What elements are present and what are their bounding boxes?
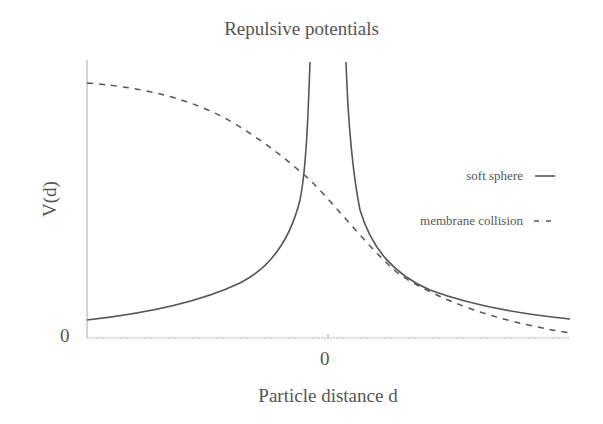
series-membrane-collision [87,83,570,333]
x-axis-label: Particle distance d [0,385,603,407]
legend-soft-sphere-label: soft sphere [466,168,523,184]
legend-membrane-label: membrane collision [420,213,523,229]
series-soft-sphere [87,62,310,320]
series-soft-sphere-right [346,62,570,319]
x-tick-zero: 0 [320,348,330,370]
plot-area [0,0,603,424]
y-tick-zero: 0 [60,325,70,347]
y-axis-label: V(d) [39,169,61,229]
